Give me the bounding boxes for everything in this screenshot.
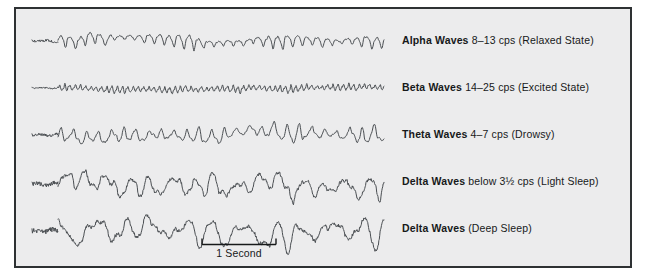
eeg-plot-area: Alpha Waves 8–13 cps (Relaxed State)Beta…: [16, 9, 630, 266]
legend-row-delta-light: Delta Waves below 3½ cps (Light Sleep): [402, 175, 632, 187]
legend-wave-description: 4–7 cps (Drowsy): [467, 128, 554, 140]
eeg-trace-theta: [58, 121, 384, 144]
legend-wave-name: Alpha Waves: [402, 34, 469, 46]
legend-wave-name: Beta Waves: [402, 81, 462, 93]
legend-wave-description: below 3½ cps (Light Sleep): [465, 175, 599, 187]
eeg-trace-leadin-theta: [32, 133, 58, 137]
legend-wave-description: (Deep Sleep): [465, 222, 532, 234]
scalebar-label: 1 Second: [179, 247, 299, 259]
scalebar-bracket: [202, 239, 276, 245]
legend-wave-description: 14–25 cps (Excited State): [462, 81, 589, 93]
legend-wave-name: Delta Waves: [402, 222, 465, 234]
eeg-trace-delta-light: [58, 170, 384, 205]
eeg-figure: Alpha Waves 8–13 cps (Relaxed State)Beta…: [14, 7, 632, 268]
eeg-trace-alpha: [58, 32, 384, 51]
legend-row-delta-deep: Delta Waves (Deep Sleep): [402, 222, 632, 234]
legend-row-alpha: Alpha Waves 8–13 cps (Relaxed State): [402, 34, 632, 46]
eeg-trace-leadin-delta-deep: [32, 227, 58, 234]
legend-wave-name: Theta Waves: [402, 128, 467, 140]
scalebar-bracket-icon: [179, 237, 299, 247]
eeg-trace-leadin-delta-light: [32, 181, 58, 187]
legend-row-beta: Beta Waves 14–25 cps (Excited State): [402, 81, 632, 93]
legend-wave-description: 8–13 cps (Relaxed State): [469, 34, 594, 46]
eeg-trace-leadin-alpha: [32, 39, 58, 42]
eeg-trace-leadin-beta: [32, 87, 58, 89]
legend-wave-name: Delta Waves: [402, 175, 465, 187]
legend-row-theta: Theta Waves 4–7 cps (Drowsy): [402, 128, 632, 140]
eeg-trace-beta: [58, 83, 384, 94]
eeg-legend: Alpha Waves 8–13 cps (Relaxed State)Beta…: [402, 9, 632, 266]
time-scalebar: 1 Second: [179, 237, 299, 265]
